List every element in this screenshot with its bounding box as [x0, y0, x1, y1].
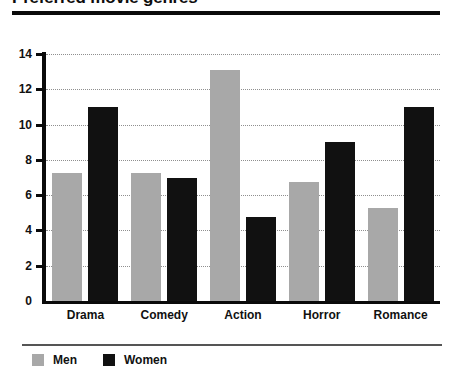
- bar: [210, 70, 240, 301]
- y-axis-tick-label: 8: [0, 154, 32, 166]
- bar: [88, 107, 118, 301]
- page-title: Preferred movie genres: [12, 0, 442, 10]
- x-axis-category-label: Action: [204, 308, 283, 322]
- y-tick-mark: [36, 53, 43, 56]
- y-axis-tick-label: 6: [0, 189, 32, 201]
- legend-divider: [22, 344, 442, 346]
- legend-swatch-icon: [103, 354, 115, 366]
- title-divider: [12, 11, 440, 15]
- legend-label: Men: [53, 354, 77, 366]
- legend-item: Men: [32, 354, 77, 366]
- y-tick-mark: [36, 159, 43, 162]
- y-axis-tick-label: 14: [0, 48, 32, 60]
- x-axis-category-label: Drama: [46, 308, 125, 322]
- bar: [131, 173, 161, 301]
- bar: [289, 182, 319, 301]
- bar: [368, 208, 398, 302]
- legend-label: Women: [124, 354, 167, 366]
- bar: [325, 142, 355, 301]
- legend-swatch-icon: [32, 354, 44, 366]
- bar: [167, 178, 197, 302]
- y-tick-mark: [36, 124, 43, 127]
- legend-item: Women: [103, 354, 167, 366]
- x-axis-category-label: Romance: [361, 308, 440, 322]
- y-tick-mark: [36, 194, 43, 197]
- y-axis-tick-label: 10: [0, 119, 32, 131]
- chart-figure: Preferred movie genres MenWomen 02468101…: [0, 0, 450, 378]
- y-axis-tick-label: 0: [0, 295, 32, 307]
- x-axis-category-label: Comedy: [125, 308, 204, 322]
- bar: [52, 173, 82, 301]
- bar: [246, 217, 276, 301]
- x-axis-category-label: Horror: [282, 308, 361, 322]
- y-axis-tick-label: 12: [0, 83, 32, 95]
- bar: [404, 107, 434, 301]
- y-axis-tick-label: 2: [0, 260, 32, 272]
- gridline: [46, 54, 440, 55]
- gridline: [46, 89, 440, 90]
- plot-area: [46, 54, 440, 301]
- y-tick-mark: [36, 265, 43, 268]
- chart-legend: MenWomen: [32, 354, 167, 366]
- y-axis-tick-label: 4: [0, 224, 32, 236]
- y-tick-mark: [36, 88, 43, 91]
- y-tick-mark: [36, 229, 43, 232]
